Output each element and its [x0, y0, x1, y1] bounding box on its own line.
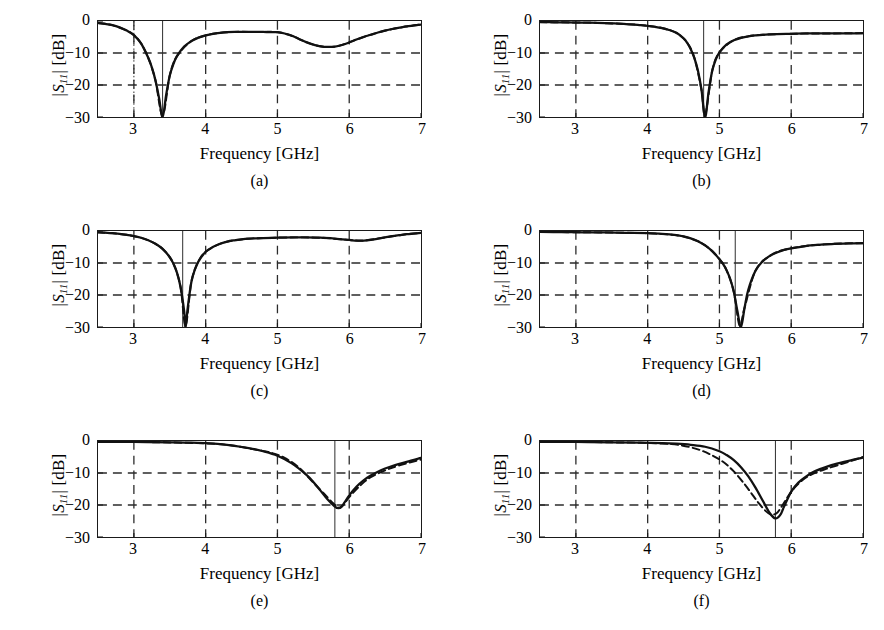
x-tick-labels: 34567: [539, 120, 864, 146]
x-tick-label: 3: [129, 540, 137, 558]
x-tick-label: 7: [418, 540, 426, 558]
x-axis-label: Frequency [GHz]: [97, 354, 422, 374]
plot-area: [97, 20, 422, 118]
x-axis-label: Frequency [GHz]: [539, 564, 864, 584]
x-tick-label: 5: [274, 120, 282, 138]
y-tick-label: −20: [507, 76, 532, 94]
plot-panel-e: |S11| [dB]0−10−20−3034567Frequency [GHz]…: [0, 420, 442, 630]
y-tick-label: 0: [82, 431, 90, 449]
data-curve-simulated: [540, 442, 863, 515]
y-tick-label: 0: [82, 11, 90, 29]
data-curve-measured: [98, 23, 421, 117]
y-tick-label: −20: [65, 286, 90, 304]
x-tick-label: 7: [418, 330, 426, 348]
y-tick-label: 0: [82, 221, 90, 239]
x-tick-labels: 34567: [97, 330, 422, 356]
subplot-caption: (a): [97, 172, 422, 190]
plot-area: [539, 20, 864, 118]
x-axis-label: Frequency [GHz]: [539, 144, 864, 164]
x-tick-label: 3: [571, 120, 579, 138]
data-curve-simulated: [98, 232, 421, 325]
y-tick-label: −30: [507, 109, 532, 127]
x-tick-label: 6: [788, 540, 796, 558]
y-tick-label: −30: [65, 109, 90, 127]
data-curve-measured: [98, 232, 421, 327]
plot-canvas: [98, 21, 421, 117]
subplot-caption: (f): [539, 592, 864, 610]
subplot-caption: (c): [97, 382, 422, 400]
x-tick-label: 3: [571, 540, 579, 558]
y-tick-label: 0: [524, 431, 532, 449]
plot-canvas: [98, 231, 421, 327]
x-tick-label: 4: [201, 540, 209, 558]
x-tick-label: 3: [571, 330, 579, 348]
plot-canvas: [540, 21, 863, 117]
plot-canvas: [540, 441, 863, 537]
y-tick-labels: 0−10−20−30: [38, 210, 94, 420]
x-tick-label: 5: [274, 330, 282, 348]
y-tick-labels: 0−10−20−30: [480, 420, 536, 630]
plot-area: [97, 440, 422, 538]
x-axis-label: Frequency [GHz]: [97, 144, 422, 164]
x-tick-label: 4: [643, 540, 651, 558]
x-tick-label: 5: [716, 120, 724, 138]
subplot-caption: (e): [97, 592, 422, 610]
plot-area: [539, 440, 864, 538]
x-tick-label: 7: [860, 540, 868, 558]
plot-panel-c: |S11| [dB]0−10−20−3034567Frequency [GHz]…: [0, 210, 442, 420]
x-axis-label: Frequency [GHz]: [539, 354, 864, 374]
y-tick-label: −10: [507, 464, 532, 482]
x-tick-label: 5: [274, 540, 282, 558]
x-tick-label: 7: [860, 330, 868, 348]
subplot-caption: (b): [539, 172, 864, 190]
x-tick-label: 7: [860, 120, 868, 138]
plot-panel-d: |S11| [dB]0−10−20−3034567Frequency [GHz]…: [442, 210, 884, 420]
plot-canvas: [540, 231, 863, 327]
y-tick-label: −10: [507, 44, 532, 62]
x-axis-label: Frequency [GHz]: [97, 564, 422, 584]
x-tick-labels: 34567: [97, 540, 422, 566]
plot-panel-a: |S11| [dB]0−10−20−3034567Frequency [GHz]…: [0, 0, 442, 210]
y-tick-label: −10: [65, 44, 90, 62]
data-curve-measured: [540, 22, 863, 117]
x-tick-label: 4: [201, 330, 209, 348]
plot-area: [97, 230, 422, 328]
x-tick-label: 6: [346, 330, 354, 348]
y-tick-label: 0: [524, 11, 532, 29]
y-tick-label: −30: [507, 529, 532, 547]
y-tick-label: −10: [65, 464, 90, 482]
data-curve-measured: [98, 442, 421, 508]
plot-panel-b: |S11| [dB]0−10−20−3034567Frequency [GHz]…: [442, 0, 884, 210]
x-tick-label: 3: [129, 120, 137, 138]
y-tick-label: −30: [65, 529, 90, 547]
x-tick-label: 5: [716, 330, 724, 348]
y-tick-label: −30: [507, 319, 532, 337]
plot-canvas: [98, 441, 421, 537]
x-tick-labels: 34567: [539, 330, 864, 356]
y-tick-label: −20: [507, 496, 532, 514]
y-tick-label: −20: [507, 286, 532, 304]
plot-panel-f: |S11| [dB]0−10−20−3034567Frequency [GHz]…: [442, 420, 884, 630]
x-tick-label: 4: [643, 120, 651, 138]
data-curve-simulated: [98, 23, 421, 116]
y-tick-label: −20: [65, 76, 90, 94]
x-tick-label: 6: [346, 120, 354, 138]
x-tick-label: 3: [129, 330, 137, 348]
x-tick-labels: 34567: [539, 540, 864, 566]
y-tick-label: 0: [524, 221, 532, 239]
x-tick-label: 6: [788, 120, 796, 138]
plot-area: [539, 230, 864, 328]
x-tick-labels: 34567: [97, 120, 422, 146]
y-tick-labels: 0−10−20−30: [38, 420, 94, 630]
x-tick-label: 4: [643, 330, 651, 348]
data-curve-measured: [540, 232, 863, 327]
x-tick-label: 6: [346, 540, 354, 558]
x-tick-label: 6: [788, 330, 796, 348]
y-tick-label: −10: [65, 254, 90, 272]
y-tick-label: −20: [65, 496, 90, 514]
y-tick-label: −10: [507, 254, 532, 272]
figure-grid: |S11| [dB]0−10−20−3034567Frequency [GHz]…: [0, 0, 884, 630]
y-tick-label: −30: [65, 319, 90, 337]
subplot-caption: (d): [539, 382, 864, 400]
x-tick-label: 7: [418, 120, 426, 138]
